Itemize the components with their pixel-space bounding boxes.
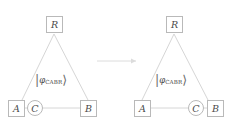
edge-r-b bbox=[54, 34, 88, 100]
figure-canvas: R A C B |φCABR⟩ R A bbox=[0, 0, 237, 128]
node-c-label: C bbox=[192, 103, 199, 114]
edge-r-b bbox=[174, 34, 208, 100]
ket-subscript: CABR bbox=[165, 79, 182, 85]
ket-close-angle: ⟩ bbox=[182, 72, 187, 87]
node-a[interactable]: A bbox=[8, 100, 25, 117]
node-b[interactable]: B bbox=[80, 100, 97, 117]
node-r[interactable]: R bbox=[46, 16, 63, 33]
node-a-label: A bbox=[13, 103, 20, 114]
node-b-label: B bbox=[212, 103, 219, 114]
ket-close-angle: ⟩ bbox=[62, 72, 67, 87]
edge-r-a bbox=[142, 34, 174, 100]
state-label-cabr: |φCABR⟩ bbox=[35, 74, 67, 87]
node-r-label: R bbox=[171, 19, 178, 30]
node-a-label: A bbox=[139, 103, 146, 114]
node-r-label: R bbox=[51, 19, 58, 30]
node-c[interactable]: C bbox=[27, 100, 43, 116]
diagram-right: R A C B |φCABR⟩ bbox=[122, 0, 234, 128]
ket-subscript: CABR bbox=[45, 79, 62, 85]
node-c[interactable]: C bbox=[188, 100, 204, 116]
state-label-cabr: |φCABR⟩ bbox=[155, 74, 187, 87]
node-a[interactable]: A bbox=[134, 100, 151, 117]
node-b[interactable]: B bbox=[207, 100, 224, 117]
node-c-label: C bbox=[31, 103, 38, 114]
edge-r-a bbox=[22, 34, 54, 100]
node-r[interactable]: R bbox=[166, 16, 183, 33]
node-b-label: B bbox=[85, 103, 92, 114]
